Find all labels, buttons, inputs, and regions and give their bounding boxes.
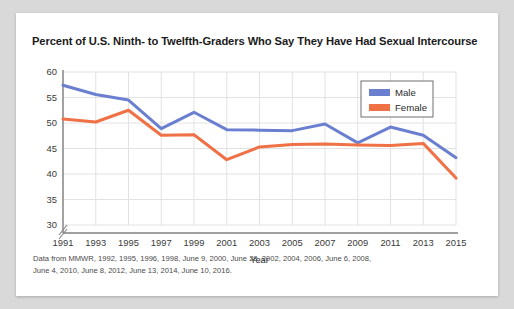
screenshot-root: Percent of U.S. Ninth- to Twelfth-Grader… — [0, 0, 514, 309]
x-tick-label: 2001 — [216, 237, 237, 248]
chart-legend: MaleFemale — [361, 81, 433, 117]
x-tick-labels-group: 1991199319951997199920012003200520072009… — [53, 237, 467, 248]
y-tick-label: 30 — [47, 219, 57, 230]
x-tick-label: 1997 — [151, 237, 172, 248]
source-note-line-2: June 4, 2010, June 8, 2012, June 13, 201… — [33, 265, 483, 277]
legend-swatch-female — [369, 104, 390, 111]
x-tick-label: 2005 — [282, 237, 303, 248]
y-tick-label: 60 — [47, 66, 57, 77]
y-tick-label: 55 — [47, 92, 57, 103]
y-tick-label: 50 — [47, 117, 57, 128]
chart-card: Percent of U.S. Ninth- to Twelfth-Grader… — [16, 13, 498, 296]
source-note: Data from MMWR, 1992, 1995, 1996, 1998, … — [33, 253, 483, 277]
x-tick-label: 2011 — [380, 237, 400, 248]
x-tick-label: 2013 — [413, 237, 434, 248]
x-tick-label: 1993 — [85, 237, 106, 248]
legend-swatch-male — [369, 89, 390, 96]
x-tick-label: 1999 — [184, 237, 205, 248]
y-tick-label: 35 — [47, 194, 57, 205]
y-tick-label: 45 — [47, 143, 57, 154]
y-tick-label: 40 — [47, 168, 57, 179]
x-tick-label: 1995 — [118, 237, 139, 248]
y-tick-labels-group: 30354045505560 — [47, 66, 57, 230]
x-tick-label: 1991 — [53, 237, 74, 248]
legend-label-female: Female — [395, 102, 427, 113]
x-tick-label: 2003 — [249, 237, 270, 248]
x-tick-label: 2007 — [315, 237, 336, 248]
x-tick-label: 2009 — [347, 237, 368, 248]
x-tick-label: 2015 — [446, 237, 467, 248]
legend-label-male: Male — [395, 87, 416, 98]
source-note-line-1: Data from MMWR, 1992, 1995, 1996, 1998, … — [33, 253, 483, 265]
